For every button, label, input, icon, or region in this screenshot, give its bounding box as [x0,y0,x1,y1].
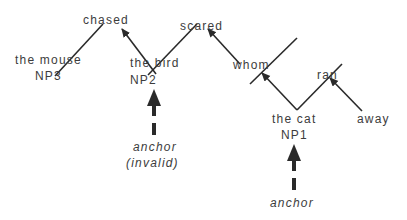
edge-away-ran-arrow [330,78,362,111]
edge-mouse-chased [55,24,103,76]
node-away: away [357,112,390,126]
diagram-canvas [0,0,407,220]
edge-cat-whom-arrow [262,73,297,110]
node-scared: scared [180,19,223,33]
anchor-arrow-np2 [147,89,161,135]
node-mouse: the mouse [15,53,82,67]
node-whom: whom [233,58,270,72]
node-cat-tag: NP1 [281,128,308,142]
node-chased: chased [83,13,129,27]
anchor-arrow-np1 [287,144,301,190]
node-bird: the bird [130,56,180,70]
anchor-note-invalid: (invalid) [126,156,179,170]
anchor-label-np2: anchor [133,140,177,154]
anchor-label-np1: anchor [270,196,314,210]
node-bird-tag: NP2 [130,73,157,87]
node-ran: ran [317,68,338,82]
node-mouse-tag: NP3 [35,69,62,83]
node-cat: the cat [272,112,316,126]
